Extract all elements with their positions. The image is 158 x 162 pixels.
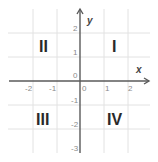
x-axis-label: x [135, 64, 142, 75]
quadrant-1-label: I [112, 38, 116, 55]
x-tick-label: -1 [49, 84, 57, 93]
quadrant-3-label: III [36, 111, 49, 128]
y-axis-label: y [86, 15, 93, 26]
quadrant-2-label: II [39, 38, 48, 55]
y-tick-label: 2 [73, 24, 78, 33]
x-tick-label: 2 [128, 84, 133, 93]
coordinate-plane: x y -2 -1 0 1 2 2 1 0 -1 -2 -3 I II III … [0, 0, 158, 162]
x-tick-label: 1 [105, 84, 110, 93]
y-tick-label: 1 [73, 48, 78, 57]
x-tick-label: -2 [25, 84, 33, 93]
x-tick-label: 0 [82, 84, 87, 93]
y-tick-label: -1 [71, 96, 79, 105]
quadrant-4-label: IV [107, 111, 122, 128]
y-tick-label: -2 [71, 120, 79, 129]
y-tick-label: -3 [71, 144, 79, 153]
y-tick-label: 0 [73, 71, 78, 80]
